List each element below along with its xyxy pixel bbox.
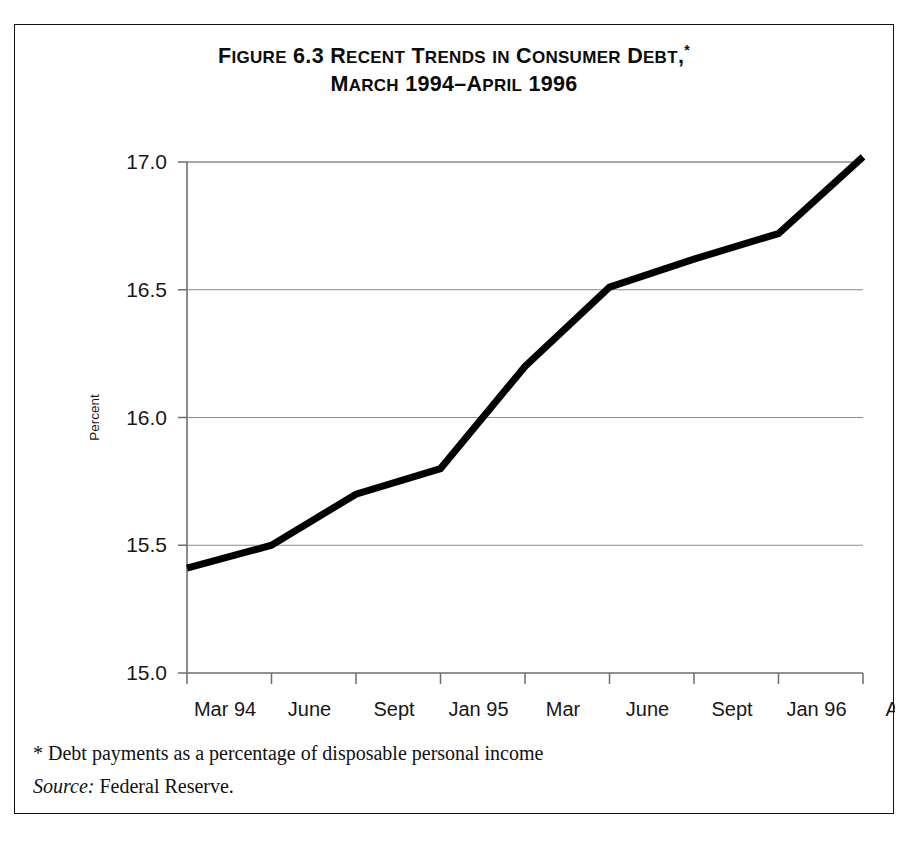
source-value: Federal Reserve.	[99, 775, 233, 797]
x-axis-tick-label: Apr	[885, 698, 895, 720]
source-label: Source:	[33, 775, 94, 797]
y-axis-tick-label: 16.0	[126, 406, 167, 429]
y-axis-tick-labels: 15.015.516.016.517.0	[126, 150, 167, 684]
y-axis-tick-label: 17.0	[126, 150, 167, 173]
data-series-line	[187, 157, 863, 568]
figure-footnote: * Debt payments as a percentage of dispo…	[33, 737, 873, 770]
x-axis-ticks	[187, 673, 863, 684]
x-axis-tick-label: Sept	[373, 698, 415, 720]
y-axis-tick-label: 16.5	[126, 278, 167, 301]
x-axis-tick-label: June	[288, 698, 331, 720]
figure-card: FIGURE 6.3 RECENT TRENDS IN CONSUMER DEB…	[14, 24, 894, 814]
x-axis-tick-label: Sept	[711, 698, 753, 720]
y-axis-tick-label: 15.5	[126, 533, 167, 556]
x-axis-tick-label: Jan 95	[448, 698, 508, 720]
y-axis-tick-label: 15.0	[126, 661, 167, 684]
x-axis-tick-label: Jan 96	[786, 698, 846, 720]
x-axis-tick-label: Mar	[546, 698, 581, 720]
figure-source: Source: Federal Reserve.	[33, 770, 873, 803]
x-axis-tick-labels: Mar 94JuneSeptJan 95MarJuneSeptJan 96Apr	[194, 698, 895, 720]
x-axis-tick-label: June	[626, 698, 669, 720]
figure-footnotes: * Debt payments as a percentage of dispo…	[33, 737, 873, 803]
y-axis-title: Percent	[87, 394, 102, 441]
chart-plot-area: 15.015.516.016.517.0 Mar 94JuneSeptJan 9…	[15, 25, 895, 725]
y-axis-ticks	[178, 162, 187, 673]
line-chart: 15.015.516.016.517.0 Mar 94JuneSeptJan 9…	[15, 25, 895, 725]
grid-lines	[187, 162, 863, 545]
x-axis-tick-label: Mar 94	[194, 698, 256, 720]
